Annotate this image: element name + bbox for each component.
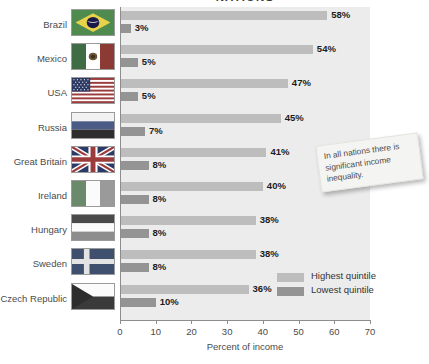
bar-highest-quintile [120, 45, 313, 54]
bar-value-highest-quintile: 41% [270, 146, 289, 157]
bar-highest-quintile [120, 182, 263, 191]
flag-great-britain-icon [71, 146, 115, 173]
bar-value-highest-quintile: 54% [317, 43, 336, 54]
x-axis-label: Percent of income [120, 341, 370, 352]
flag-russia-icon [71, 112, 115, 139]
x-axis-line [120, 320, 370, 321]
bar-value-highest-quintile: 38% [260, 248, 279, 259]
bar-value-lowest-quintile: 8% [153, 261, 167, 272]
table-row: Ireland40%8% [0, 182, 429, 216]
x-axis-tick-mark [227, 320, 228, 324]
bar-lowest-quintile [120, 195, 149, 204]
x-axis-tick-label: 60 [322, 326, 346, 337]
flag-brazil-icon [71, 9, 115, 36]
bar-value-highest-quintile: 38% [260, 214, 279, 225]
bar-lowest-quintile [120, 229, 149, 238]
x-axis-tick-mark [334, 320, 335, 324]
bar-lowest-quintile [120, 92, 138, 101]
table-row: USA47%5% [0, 79, 429, 113]
sticky-note-text: In all nations there is significant inco… [323, 139, 419, 185]
bar-value-highest-quintile: 58% [331, 9, 350, 20]
country-label: Sweden [0, 258, 67, 269]
table-row: Mexico54%5% [0, 45, 429, 79]
bar-lowest-quintile [120, 24, 131, 33]
x-axis-tick-mark [120, 320, 121, 324]
x-axis-tick-label: 0 [108, 326, 132, 337]
bar-highest-quintile [120, 285, 249, 294]
country-label: Ireland [0, 190, 67, 201]
x-axis-tick-label: 10 [144, 326, 168, 337]
bar-highest-quintile [120, 114, 281, 123]
bar-value-lowest-quintile: 5% [142, 90, 156, 101]
country-label: Russia [0, 122, 67, 133]
country-label: USA [0, 87, 67, 98]
bar-highest-quintile [120, 216, 256, 225]
x-axis-tick-label: 70 [358, 326, 382, 337]
bar-value-highest-quintile: 36% [253, 283, 272, 294]
flag-sweden-icon [71, 248, 115, 275]
country-label: Brazil [0, 19, 67, 30]
y-axis-line [120, 7, 121, 320]
x-axis-tick-mark [263, 320, 264, 324]
bar-lowest-quintile [120, 263, 149, 272]
flag-hungary-icon [71, 214, 115, 241]
bar-chart: NATIONS Brazil58%3%Mexico54%5%USA47%5%Ru… [0, 0, 429, 364]
x-axis-tick-mark [191, 320, 192, 324]
bar-value-lowest-quintile: 3% [135, 22, 149, 33]
bar-value-lowest-quintile: 8% [153, 193, 167, 204]
bar-highest-quintile [120, 148, 266, 157]
country-label: Mexico [0, 53, 67, 64]
country-label: Hungary [0, 224, 67, 235]
x-axis-tick-label: 50 [287, 326, 311, 337]
x-axis-tick-mark [370, 320, 371, 324]
x-axis-tick-label: 30 [215, 326, 239, 337]
bar-lowest-quintile [120, 58, 138, 67]
x-axis-tick-label: 20 [179, 326, 203, 337]
legend-label: Highest quintile [311, 270, 376, 281]
legend-swatch [277, 273, 304, 282]
legend-label: Lowest quintile [311, 284, 374, 295]
flag-czech-republic-icon [71, 283, 115, 310]
bar-highest-quintile [120, 250, 256, 259]
bar-value-lowest-quintile: 5% [142, 56, 156, 67]
bar-value-lowest-quintile: 8% [153, 227, 167, 238]
bar-highest-quintile [120, 11, 327, 20]
bar-value-highest-quintile: 45% [285, 112, 304, 123]
flag-ireland-icon [71, 180, 115, 207]
country-label: Great Britain [0, 156, 67, 167]
bar-lowest-quintile [120, 127, 145, 136]
x-axis-tick-mark [299, 320, 300, 324]
country-label: Czech Republic [0, 293, 67, 304]
bar-highest-quintile [120, 79, 288, 88]
x-axis-tick-mark [156, 320, 157, 324]
bar-value-highest-quintile: 47% [292, 77, 311, 88]
chart-title: NATIONS [120, 0, 370, 3]
table-row: Brazil58%3% [0, 11, 429, 45]
x-axis-tick-label: 40 [251, 326, 275, 337]
bar-lowest-quintile [120, 161, 149, 170]
bar-value-highest-quintile: 40% [267, 180, 286, 191]
table-row: Hungary38%8% [0, 216, 429, 250]
legend-swatch [277, 287, 304, 296]
bar-value-lowest-quintile: 7% [149, 125, 163, 136]
flag-usa-icon [71, 77, 115, 104]
flag-mexico-icon [71, 43, 115, 70]
bar-value-lowest-quintile: 8% [153, 159, 167, 170]
bar-value-lowest-quintile: 10% [160, 296, 179, 307]
bar-lowest-quintile [120, 298, 156, 307]
